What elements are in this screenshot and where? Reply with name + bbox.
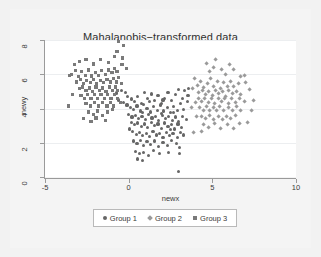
data-point	[248, 87, 253, 92]
legend-entry-3[interactable]: Group 3	[193, 214, 227, 223]
data-point	[236, 81, 241, 86]
data-point	[219, 67, 224, 72]
y-tick-mark	[40, 109, 44, 110]
data-point	[186, 100, 189, 103]
data-point	[228, 117, 233, 122]
data-point	[205, 81, 210, 86]
data-point	[102, 81, 105, 84]
data-point	[195, 83, 200, 88]
data-point	[174, 93, 177, 96]
data-point	[73, 63, 76, 66]
data-point	[83, 97, 86, 100]
data-point	[176, 122, 179, 125]
data-point	[135, 104, 138, 107]
data-point	[245, 121, 250, 126]
data-point	[238, 96, 243, 101]
data-point	[146, 126, 149, 129]
data-point	[126, 95, 129, 98]
data-point	[156, 122, 159, 125]
data-point	[156, 109, 159, 112]
data-point	[99, 58, 102, 61]
data-point	[104, 119, 107, 122]
data-point	[170, 139, 173, 142]
data-point	[89, 120, 92, 123]
data-point	[203, 96, 208, 101]
data-point	[134, 150, 137, 153]
y-tick-label: 2	[20, 142, 29, 156]
data-point	[78, 60, 81, 63]
data-point	[132, 108, 135, 111]
data-point	[208, 113, 213, 118]
data-point	[177, 88, 180, 91]
data-point	[142, 144, 145, 147]
data-point	[71, 93, 74, 96]
data-point	[198, 79, 203, 84]
y-tick-mark	[40, 143, 44, 144]
data-point	[119, 101, 122, 104]
data-point	[84, 102, 87, 105]
data-point	[117, 40, 120, 43]
data-point	[115, 80, 118, 83]
data-point	[192, 130, 197, 135]
legend-entry-2[interactable]: Group 2	[148, 214, 182, 223]
data-point	[237, 122, 242, 127]
data-point	[89, 104, 92, 107]
data-point	[87, 110, 90, 113]
data-point	[203, 117, 208, 122]
data-point	[89, 81, 92, 84]
data-point	[213, 122, 218, 127]
data-point	[120, 89, 123, 92]
data-point	[225, 122, 230, 127]
data-point	[166, 91, 169, 94]
data-point	[199, 129, 204, 134]
legend-entry-1[interactable]: Group 1	[103, 214, 137, 223]
data-point	[194, 115, 199, 120]
data-point	[117, 76, 120, 79]
x-tick-label: 5	[203, 183, 221, 192]
data-point	[202, 122, 207, 127]
data-point	[193, 100, 198, 105]
square-marker-icon	[193, 216, 197, 220]
legend-label: Group 2	[155, 214, 182, 223]
data-point	[183, 89, 186, 92]
data-point	[207, 125, 212, 130]
data-point	[143, 91, 146, 94]
data-point	[121, 56, 124, 59]
y-tick-label: 6	[20, 74, 29, 88]
data-point	[110, 71, 113, 74]
x-axis-line	[44, 178, 296, 179]
data-point	[84, 74, 87, 77]
data-point	[150, 92, 153, 95]
data-point	[84, 58, 87, 61]
data-point	[208, 69, 213, 74]
data-point	[96, 109, 99, 112]
data-point	[74, 69, 77, 72]
data-point	[185, 118, 188, 121]
data-point	[170, 123, 173, 126]
data-point	[154, 115, 157, 118]
data-point	[120, 63, 123, 66]
data-point	[136, 157, 139, 160]
data-point	[103, 97, 106, 100]
data-point	[222, 109, 227, 114]
data-point	[181, 97, 184, 100]
graph-region: Mahalanobis−transformed data newy newx G…	[10, 9, 311, 248]
data-point	[97, 104, 100, 107]
data-point	[176, 109, 179, 112]
data-point	[229, 97, 234, 102]
data-point	[149, 143, 152, 146]
y-tick-label: 0	[20, 177, 29, 191]
data-point	[211, 65, 216, 70]
data-point	[249, 109, 254, 114]
data-point	[158, 152, 161, 155]
data-point	[177, 170, 180, 173]
data-point	[173, 127, 176, 130]
data-point	[101, 101, 104, 104]
data-point	[141, 111, 144, 114]
data-point	[167, 151, 170, 154]
data-point	[167, 115, 170, 118]
data-point	[231, 126, 236, 131]
data-point	[191, 87, 196, 92]
data-point	[208, 76, 213, 81]
data-point	[141, 159, 144, 162]
